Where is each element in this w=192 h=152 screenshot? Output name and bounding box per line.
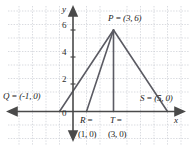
y-axis-label: y — [62, 5, 66, 14]
point-label-P-text: P = (3, 6) — [108, 13, 141, 23]
figure-canvas: 6 4 2 0 y x P = (3, 6) Q = (-1, 0) S = (… — [0, 0, 192, 152]
point-label-T-eq: = — [117, 115, 122, 125]
point-label-P: P = (3, 6) — [108, 14, 141, 23]
point-label-R-coords: (1, 0) — [78, 130, 96, 139]
y-axis — [69, 7, 77, 140]
point-label-R-name: R — [80, 115, 85, 125]
point-label-T-name: T — [110, 115, 115, 125]
y-axis-arrow-up — [69, 7, 77, 16]
point-label-Q: Q = (-1, 0) — [3, 92, 40, 101]
x-axis-arrow-left — [8, 108, 17, 116]
x-axis-label: x — [174, 116, 178, 125]
y-tick-label-4: 4 — [62, 47, 67, 57]
point-label-T-coords: (3, 0) — [108, 130, 126, 139]
x-axis — [8, 108, 184, 116]
y-tick-label-2: 2 — [62, 74, 67, 84]
point-label-T: T = — [110, 116, 122, 125]
point-label-Q-text: Q = (-1, 0) — [3, 91, 40, 101]
point-label-R: R = — [80, 116, 92, 125]
point-label-S-text: S = (5, 0) — [140, 93, 173, 103]
origin-label: 0 — [62, 108, 67, 118]
point-label-S: S = (5, 0) — [140, 94, 173, 103]
point-label-R-eq: = — [87, 115, 92, 125]
y-tick-label-6: 6 — [62, 20, 67, 30]
